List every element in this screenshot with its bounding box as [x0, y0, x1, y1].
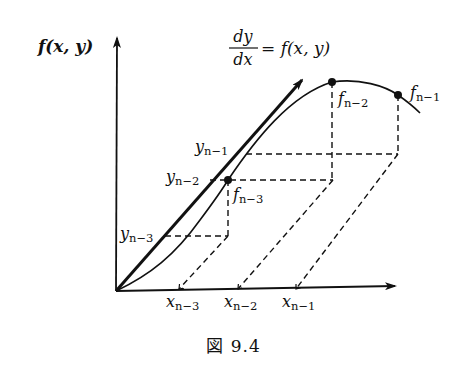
figure-caption: 図 9.4	[0, 332, 467, 357]
x-label-1: xn−2	[224, 292, 257, 313]
labels: fn−3fn−2fn−1yn−1yn−2yn−3xn−3xn−2xn−1	[119, 83, 440, 313]
diagram-figure: fn−3fn−2fn−1yn−1yn−2yn−3xn−3xn−2xn−1 dy …	[0, 0, 467, 375]
eq-denominator: dx	[233, 50, 252, 69]
y-axis-label: f(x, y)	[37, 36, 93, 56]
y-axis	[116, 38, 117, 291]
label-f_n-3: fn−3	[232, 185, 263, 206]
y-label-0: yn−1	[194, 137, 228, 158]
point-f_n-3	[224, 176, 232, 184]
slope-arrow	[116, 80, 302, 291]
equation: dy dx = f(x, y)	[229, 27, 330, 69]
point-f_n-2	[328, 78, 336, 86]
eq-numerator: dy	[233, 27, 253, 46]
data-points	[224, 78, 402, 184]
y-label-2: yn−3	[119, 224, 153, 245]
label-f_n-2: fn−2	[337, 89, 368, 110]
eq-rhs: = f(x, y)	[261, 38, 330, 58]
y-label-1: yn−2	[165, 167, 199, 188]
dashed-line	[296, 154, 398, 289]
x-label-2: xn−1	[282, 292, 315, 313]
solution-curve	[116, 81, 420, 291]
x-label-0: xn−3	[166, 292, 199, 313]
label-f_n-1: fn−1	[409, 83, 440, 104]
x-axis	[116, 286, 395, 291]
axes	[116, 38, 395, 291]
point-f_n-1	[394, 91, 402, 99]
dashed-line	[179, 236, 228, 289]
